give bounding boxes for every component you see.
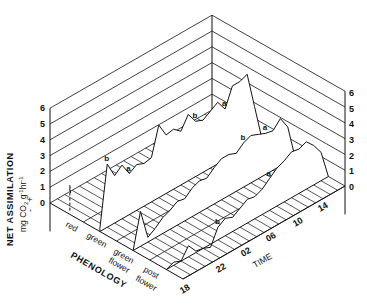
time-tick-06: 06 [264, 230, 278, 244]
z-tick-right-6: 6 [349, 88, 354, 98]
z-tick-left-0: 0 [40, 198, 45, 208]
z-tick-left-4: 4 [40, 135, 45, 145]
z-tick-right-4: 4 [349, 119, 354, 129]
z-tick-left-3: 3 [40, 151, 45, 161]
marker-b: b [215, 217, 220, 226]
marker-a: a [263, 123, 268, 132]
z-tick-right-1: 1 [349, 166, 354, 176]
time-tick-14: 14 [316, 200, 330, 214]
time-axis-title: TIME [251, 251, 274, 270]
phenology-green: green [85, 230, 109, 250]
z-tick-right-0: 0 [349, 182, 354, 192]
time-tick-02: 02 [239, 245, 253, 259]
time-tick-18: 18 [178, 282, 192, 296]
z-tick-left-2: 2 [40, 166, 45, 176]
marker-b: b [241, 133, 246, 142]
z-sign-minus: - [25, 209, 35, 212]
z-axis-units: mg CO2 g-1hr-1 [18, 176, 29, 232]
marker-a: a [266, 169, 271, 178]
z-axis-title: NET ASSIMILATION [5, 152, 15, 246]
marker-b: b [193, 111, 198, 120]
time-tick-10: 10 [291, 215, 305, 229]
marker-a: a [222, 99, 227, 108]
z-tick-right-2: 2 [349, 151, 354, 161]
z-tick-left-5: 5 [40, 119, 45, 129]
z-tick-left-1: 1 [40, 182, 45, 192]
z-tick-right-3: 3 [349, 135, 354, 145]
z-sign-plus: + [25, 197, 35, 202]
z-tick-left-6: 6 [40, 103, 45, 113]
time-tick-22: 22 [214, 261, 228, 275]
z-tick-right-5: 5 [349, 104, 354, 114]
marker-b: b [104, 154, 109, 163]
marker-a: a [126, 164, 131, 173]
net-assimilation-3d-chart: babababa 6 5 4 3 2 1 0 6 5 4 3 2 1 0 NET… [0, 0, 367, 306]
phenology-red: red [64, 219, 80, 234]
